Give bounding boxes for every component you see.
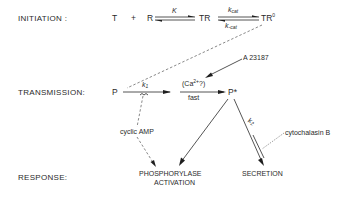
plus-sign: + (131, 13, 136, 23)
label-cytochalasin-b: cytochalasin B (285, 129, 330, 137)
label-k-minus-cat: k-cat (225, 22, 237, 30)
label-k2: k2 (247, 117, 256, 127)
arrow-Pstar-to-secretion (234, 99, 264, 166)
dotted-link-cytochalasin (262, 133, 284, 149)
stage-label-response: RESPONSE: (18, 173, 67, 182)
node-R: R (147, 13, 153, 23)
equilibrium-arrow-K (155, 15, 195, 22)
arrow-A23187 (205, 59, 242, 78)
label-activation: ACTIVATION (154, 179, 195, 186)
arrow-fast (180, 90, 226, 94)
arrow-Pstar-to-phosphorylase (179, 99, 228, 166)
arrow-k1 (123, 90, 171, 95)
node-P: P (112, 87, 118, 97)
dashed-arrow-cyclic-amp-to-phosphorylase (137, 137, 156, 167)
label-kcat: kcat (228, 6, 239, 14)
dashed-link-k1-to-cyclic-amp (137, 96, 143, 127)
label-cyclic-amp: cyclic AMP (120, 128, 154, 136)
signal-pathway-diagram: INITIATION : TRANSMISSION: RESPONSE: T +… (0, 0, 361, 197)
node-T: T (112, 13, 117, 23)
label-phosphorylase: PHOSPHORYLASE (139, 170, 202, 177)
equilibrium-arrow-kcat (218, 15, 259, 22)
label-fast: fast (188, 94, 199, 101)
label-K: K (172, 7, 177, 14)
node-P-star: P* (228, 87, 238, 97)
stage-label-transmission: TRANSMISSION: (18, 88, 85, 97)
node-TR0: TR0 (261, 12, 275, 23)
label-ca2: (Ca2+?) (182, 78, 205, 88)
node-TR: TR (199, 13, 210, 23)
label-secretion: SECRETION (242, 170, 283, 177)
label-k1: k1 (142, 81, 149, 89)
label-A23187: A 23187 (243, 54, 269, 61)
stage-label-initiation: INITIATION : (18, 14, 67, 23)
